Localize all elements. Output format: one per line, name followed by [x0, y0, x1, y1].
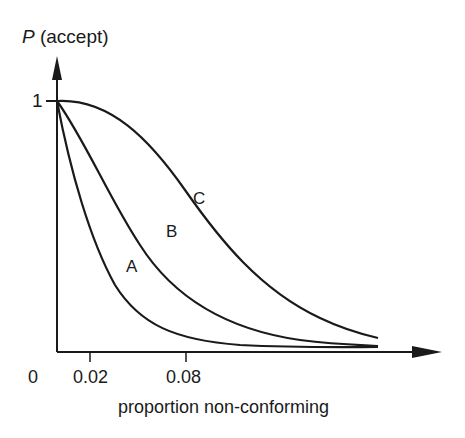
oc-curve-chart: [0, 0, 465, 438]
title-rest: (accept): [35, 26, 109, 47]
y-axis-arrow-icon: [52, 56, 62, 80]
curve-b: [57, 101, 378, 346]
curve-label-a: A: [126, 257, 137, 277]
y-tick-label-1: 1: [32, 90, 43, 112]
y-axis-title: P (accept): [22, 26, 109, 48]
x-axis-arrow-icon: [412, 346, 442, 358]
curve-label-b: B: [166, 222, 177, 242]
x-tick-label-008: 0.08: [166, 367, 201, 388]
curve-c: [57, 101, 378, 338]
x-axis-label: proportion non-conforming: [118, 397, 329, 418]
curve-label-c: C: [193, 189, 205, 209]
title-p: P: [22, 26, 35, 47]
curve-a: [57, 101, 378, 347]
x-tick-label-0: 0: [28, 367, 38, 388]
x-tick-label-002: 0.02: [73, 367, 108, 388]
